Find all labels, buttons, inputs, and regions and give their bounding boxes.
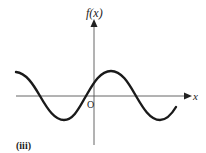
origin-label: O	[87, 99, 94, 110]
x-axis-arrow-icon	[184, 93, 192, 100]
x-axis-label: x	[192, 90, 198, 102]
y-axis-arrow-icon	[91, 19, 98, 27]
function-graph: f(x) x O (iii)	[0, 0, 206, 153]
figure-label: (iii)	[16, 140, 31, 152]
y-axis-label: f(x)	[86, 6, 103, 20]
function-curve	[16, 71, 176, 120]
